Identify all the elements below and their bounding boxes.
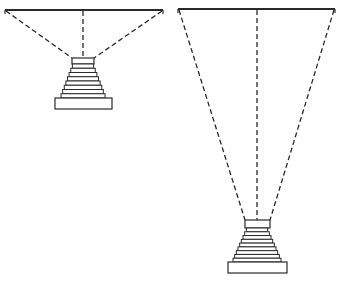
far-view-group	[178, 9, 335, 273]
pedestal-step	[243, 236, 271, 240]
sight-line-right	[270, 10, 334, 220]
near-view-group	[5, 10, 163, 109]
pedestal-step	[64, 85, 102, 89]
pedestal-base	[228, 262, 287, 273]
pedestal-base	[55, 98, 112, 109]
pedestal-step	[72, 64, 93, 68]
pedestal-step	[238, 247, 276, 251]
sight-line-left	[6, 11, 72, 58]
pedestal-step	[68, 77, 99, 81]
pedestal-step	[245, 232, 270, 236]
perspective-diagram	[0, 0, 338, 282]
pedestal-step	[236, 251, 277, 255]
pedestal-step	[66, 81, 100, 85]
pedestal-step	[71, 68, 96, 72]
sight-line-left	[179, 10, 245, 220]
pedestal-collar	[72, 58, 94, 64]
pedestal-collar	[245, 220, 270, 228]
pedestal-step	[246, 228, 267, 232]
pedestal-step	[61, 94, 105, 98]
sight-line-right	[94, 11, 162, 58]
pedestal-step	[240, 243, 275, 247]
pedestal-step	[235, 254, 280, 258]
pedestal-step	[241, 239, 272, 243]
diagram-canvas	[0, 0, 338, 282]
pedestal-step	[63, 90, 104, 94]
pedestal-step	[69, 73, 97, 77]
